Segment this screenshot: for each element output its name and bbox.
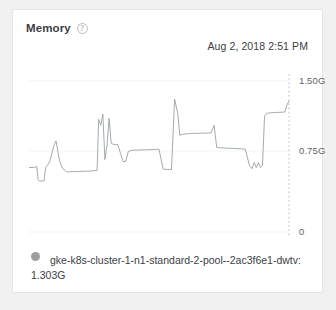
series-line — [29, 99, 289, 181]
legend-color-swatch — [31, 252, 40, 261]
timestamp-label: Aug 2, 2018 2:51 PM — [207, 40, 308, 52]
ytick-label-mid: 0.75G — [299, 145, 325, 156]
memory-line-chart[interactable] — [13, 62, 324, 242]
ytick-label-top: 1.50G — [299, 75, 325, 86]
legend-series-value: 1.303G — [31, 268, 306, 282]
legend-series-label: gke-k8s-cluster-1-n1-standard-2-pool--2a… — [50, 254, 301, 266]
title-row: Memory ? — [26, 22, 88, 35]
legend-item[interactable]: gke-k8s-cluster-1-n1-standard-2-pool--2a… — [31, 250, 306, 282]
chart-plot-area[interactable]: 1.50G 0.75G 0 — [13, 62, 324, 242]
page-title: Memory — [26, 22, 71, 35]
card-header: Memory ? Aug 2, 2018 2:51 PM — [13, 10, 322, 58]
help-circle-icon[interactable]: ? — [77, 23, 88, 34]
chart-legend: gke-k8s-cluster-1-n1-standard-2-pool--2a… — [13, 250, 322, 282]
ytick-label-zero: 0 — [299, 226, 304, 237]
memory-chart-card: Memory ? Aug 2, 2018 2:51 PM 1.50G 0.75G… — [12, 9, 323, 293]
